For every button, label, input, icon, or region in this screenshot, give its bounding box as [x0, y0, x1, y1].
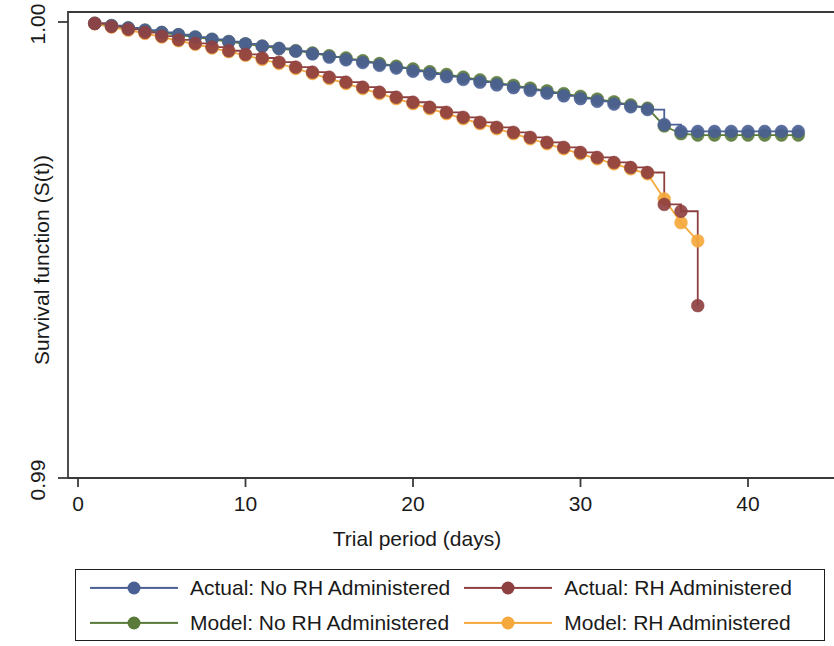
- series-marker-2: [155, 30, 168, 43]
- series-marker-2: [507, 126, 520, 139]
- series-marker-2: [122, 23, 135, 36]
- series-marker-0: [691, 125, 704, 138]
- series-marker-2: [624, 161, 637, 174]
- series-marker-0: [792, 125, 805, 138]
- chart-container: Survival function (S(t)) 1.00 0.99 Trial…: [0, 0, 834, 646]
- legend-swatch-icon: [464, 615, 552, 631]
- series-marker-2: [490, 121, 503, 134]
- series-marker-2: [457, 111, 470, 124]
- legend-item-1[interactable]: Actual: RH Administered: [450, 576, 824, 600]
- series-marker-2: [524, 131, 537, 144]
- legend-label: Actual: No RH Administered: [178, 576, 450, 600]
- series-marker-0: [557, 89, 570, 102]
- plot-area: [0, 0, 834, 646]
- legend-label: Model: No RH Administered: [178, 611, 449, 635]
- series-marker-2: [423, 101, 436, 114]
- series-marker-0: [742, 125, 755, 138]
- series-marker-2: [541, 136, 554, 149]
- series-marker-2: [172, 33, 185, 46]
- series-marker-2: [675, 205, 688, 218]
- series-marker-0: [373, 59, 386, 72]
- series-marker-2: [88, 17, 101, 30]
- series-marker-2: [474, 116, 487, 129]
- series-marker-2: [658, 198, 671, 211]
- series-marker-0: [323, 51, 336, 64]
- series-line-3: [95, 24, 698, 241]
- series-marker-2: [591, 151, 604, 164]
- series-marker-0: [390, 62, 403, 75]
- series-marker-2: [608, 156, 621, 169]
- chart-legend: Actual: No RH AdministeredActual: RH Adm…: [75, 569, 825, 641]
- series-marker-0: [256, 40, 269, 53]
- series-marker-0: [423, 68, 436, 81]
- series-marker-2: [557, 141, 570, 154]
- series-marker-0: [708, 125, 721, 138]
- series-marker-0: [407, 65, 420, 78]
- series-marker-0: [340, 53, 353, 66]
- legend-item-2[interactable]: Model: No RH Administered: [76, 611, 450, 635]
- legend-swatch-icon: [464, 580, 552, 596]
- legend-swatch-icon: [90, 615, 178, 631]
- series-marker-2: [340, 76, 353, 89]
- series-marker-0: [725, 125, 738, 138]
- series-marker-2: [323, 71, 336, 84]
- series-marker-2: [239, 48, 252, 61]
- series-marker-0: [574, 92, 587, 105]
- series-marker-2: [440, 106, 453, 119]
- series-marker-0: [675, 125, 688, 138]
- series-marker-0: [591, 95, 604, 108]
- legend-marker-dot: [128, 616, 141, 629]
- series-marker-0: [541, 87, 554, 100]
- series-marker-2: [356, 81, 369, 94]
- legend-marker-dot: [128, 581, 141, 594]
- legend-label: Model: RH Administered: [552, 611, 790, 635]
- series-marker-3: [675, 216, 688, 229]
- series-marker-2: [390, 91, 403, 104]
- series-marker-2: [222, 44, 235, 57]
- series-marker-2: [289, 61, 302, 74]
- series-marker-2: [139, 26, 152, 39]
- series-marker-3: [691, 234, 704, 247]
- series-marker-2: [373, 86, 386, 99]
- plot-frame: [68, 12, 834, 478]
- series-marker-2: [691, 299, 704, 312]
- series-marker-0: [658, 118, 671, 131]
- legend-item-0[interactable]: Actual: No RH Administered: [76, 576, 450, 600]
- series-marker-2: [306, 66, 319, 79]
- legend-item-3[interactable]: Model: RH Administered: [450, 611, 824, 635]
- series-marker-0: [775, 125, 788, 138]
- series-marker-0: [356, 56, 369, 69]
- series-marker-0: [474, 76, 487, 89]
- series-marker-0: [608, 98, 621, 111]
- series-marker-2: [407, 96, 420, 109]
- series-marker-2: [105, 20, 118, 33]
- series-marker-2: [641, 166, 654, 179]
- series-marker-0: [273, 42, 286, 55]
- legend-swatch-icon: [90, 580, 178, 596]
- legend-marker-dot: [502, 616, 515, 629]
- series-marker-0: [624, 100, 637, 113]
- series-marker-2: [574, 146, 587, 159]
- series-marker-0: [457, 73, 470, 86]
- series-marker-2: [273, 56, 286, 69]
- series-marker-0: [306, 48, 319, 61]
- series-marker-0: [507, 81, 520, 94]
- series-marker-0: [758, 125, 771, 138]
- series-marker-0: [524, 84, 537, 97]
- series-marker-2: [256, 52, 269, 65]
- legend-label: Actual: RH Administered: [552, 576, 792, 600]
- series-marker-0: [641, 103, 654, 116]
- legend-marker-dot: [502, 581, 515, 594]
- series-marker-0: [490, 79, 503, 92]
- series-marker-2: [206, 41, 219, 54]
- series-marker-2: [189, 37, 202, 50]
- series-marker-0: [289, 45, 302, 58]
- series-marker-0: [440, 70, 453, 83]
